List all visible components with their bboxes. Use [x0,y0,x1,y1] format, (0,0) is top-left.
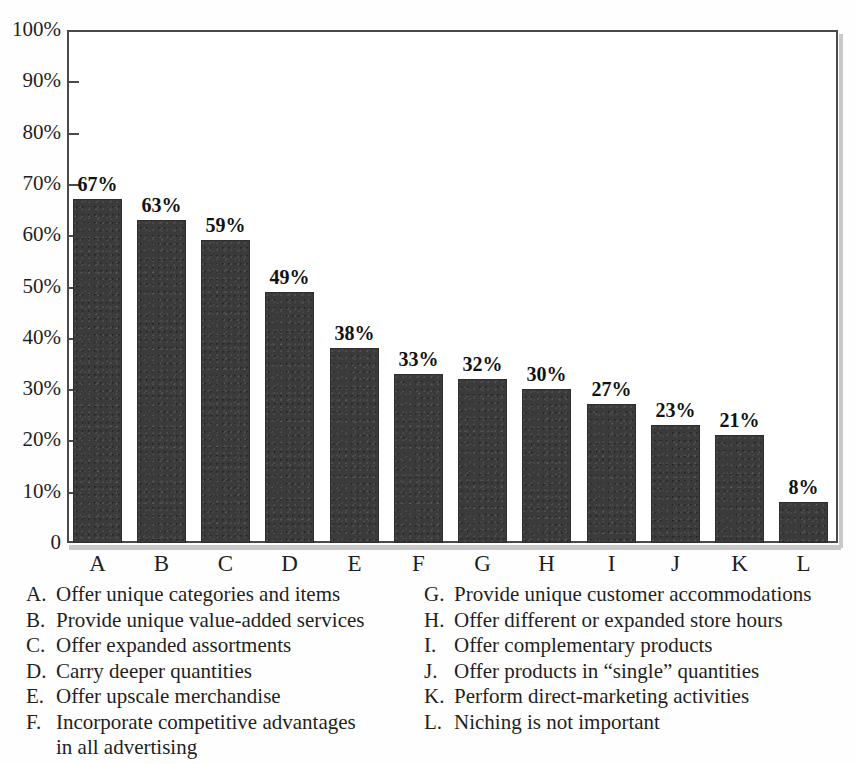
legend: A.Offer unique categories and itemsB.Pro… [0,582,856,764]
legend-item-key: J. [424,659,454,685]
legend-item: K.Perform direct-marketing activities [424,684,844,710]
bar-value-label: 8% [765,477,842,497]
bar-value-label: 63% [123,195,200,215]
bar-value-label: 67% [59,174,136,194]
bar-k [715,435,764,543]
y-tick-label: 40% [1,327,61,348]
legend-item-label: Offer complementary products [454,633,713,659]
bar-g [458,379,507,543]
legend-item-label: Offer expanded assortments [56,633,291,659]
legend-item-continuation: in all advertising [26,735,422,761]
legend-item-label: Offer upscale merchandise [56,684,281,710]
legend-column-right: G.Provide unique customer accommodations… [424,582,844,735]
legend-item: J.Offer products in “single” quantities [424,659,844,685]
bar-value-label: 38% [316,323,393,343]
y-tick-label: 100% [1,19,61,40]
legend-item-key: A. [26,582,56,608]
right-frame-shadow [839,34,843,548]
bar-l [779,502,828,543]
legend-item-key: E. [26,684,56,710]
bar-e [330,348,379,543]
bar-a [73,199,122,543]
legend-column-left: A.Offer unique categories and itemsB.Pro… [26,582,422,761]
legend-item: L.Niching is not important [424,710,844,736]
legend-item: E.Offer upscale merchandise [26,684,422,710]
y-tick-label: 90% [1,70,61,91]
x-tick-label-l: L [765,552,842,575]
legend-item-key: K. [424,684,454,710]
y-tick-label: 70% [1,173,61,194]
legend-item-label: Provide unique value-added services [56,608,364,634]
bar-value-label: 21% [701,410,778,430]
legend-item-key: I. [424,633,454,659]
legend-item-key: D. [26,659,56,685]
y-tick-label: 0 [1,532,61,553]
legend-item-label: Provide unique customer accommodations [454,582,812,608]
legend-item-label: Offer unique categories and items [56,582,340,608]
bar-h [522,389,571,543]
legend-item: I.Offer complementary products [424,633,844,659]
legend-item-label: Incorporate competitive advantages [56,710,356,736]
y-tick-mark [67,81,79,83]
legend-item-key: G. [424,582,454,608]
legend-item: G.Provide unique customer accommodations [424,582,844,608]
y-tick-label: 30% [1,378,61,399]
bar-i [587,404,636,543]
legend-item-label: Offer products in “single” quantities [454,659,759,685]
legend-item-key: H. [424,608,454,634]
bar-f [394,374,443,543]
bar-value-label: 49% [251,267,328,287]
legend-item: A.Offer unique categories and items [26,582,422,608]
legend-item: B.Provide unique value-added services [26,608,422,634]
bar-d [265,292,314,543]
bar-b [137,220,186,543]
bar-value-label: 27% [573,379,650,399]
y-tick-label: 80% [1,122,61,143]
y-tick-label: 10% [1,481,61,502]
legend-item-key: F. [26,710,56,736]
y-tick-label: 20% [1,429,61,450]
legend-item-label: Offer different or expanded store hours [454,608,783,634]
y-tick-label: 60% [1,224,61,245]
legend-item-label: Carry deeper quantities [56,659,252,685]
y-tick-label: 50% [1,276,61,297]
legend-item: F.Incorporate competitive advantages [26,710,422,736]
bar-value-label: 59% [187,215,264,235]
legend-item-label: Perform direct-marketing activities [454,684,749,710]
bar-chart-figure: 010%20%30%40%50%60%70%80%90%100% 67%63%5… [0,0,856,570]
x-axis-shadow [69,545,841,550]
legend-item-key: L. [424,710,454,736]
legend-item: D.Carry deeper quantities [26,659,422,685]
legend-item-label: Niching is not important [454,710,660,736]
bar-j [651,425,700,543]
legend-item-key: B. [26,608,56,634]
chart-page: 010%20%30%40%50%60%70%80%90%100% 67%63%5… [0,0,856,764]
y-tick-mark [67,133,79,135]
legend-item: C.Offer expanded assortments [26,633,422,659]
legend-item: H.Offer different or expanded store hour… [424,608,844,634]
bar-c [201,240,250,543]
legend-item-key: C. [26,633,56,659]
